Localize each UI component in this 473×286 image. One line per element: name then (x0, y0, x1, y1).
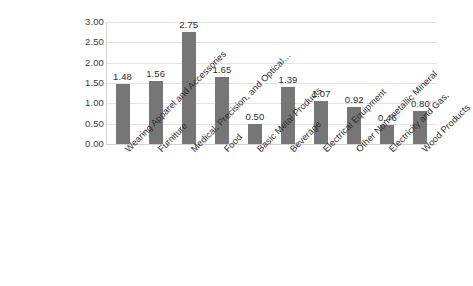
y-tick-label: 0.00 (70, 139, 104, 149)
y-tick-label: 2.00 (70, 58, 104, 68)
bar (116, 84, 130, 144)
y-axis-line (106, 22, 107, 144)
bar-value-label: 1.48 (113, 71, 132, 82)
bar-value-label: 1.39 (279, 74, 298, 85)
y-tick-label: 0.50 (70, 119, 104, 129)
bar-value-label: 0.92 (345, 94, 364, 105)
y-tick-label: 1.00 (70, 98, 104, 108)
y-tick-label: 1.50 (70, 78, 104, 88)
bar-value-label: 2.75 (179, 19, 198, 30)
y-tick-label: 2.50 (70, 37, 104, 47)
y-tick-label: 3.00 (70, 17, 104, 27)
bar-value-label: 0.50 (245, 111, 264, 122)
bar-slot: 1.48 (106, 22, 139, 144)
bar-value-label: 1.56 (146, 68, 165, 79)
x-axis-category-labels: Wearing Apparel and AccessoriesFurniture… (106, 144, 437, 286)
y-axis: 3.002.502.001.501.000.500.00 (70, 0, 104, 286)
